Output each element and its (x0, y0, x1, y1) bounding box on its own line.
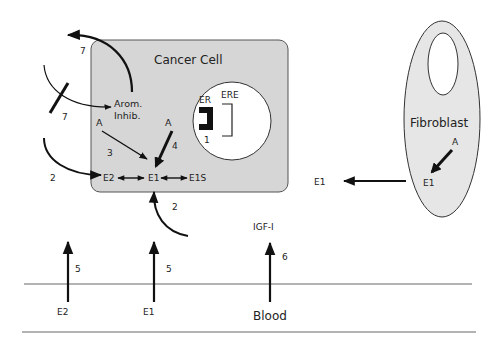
blood-label: Blood (253, 309, 287, 323)
nucleus: ER ERE 1 (193, 82, 271, 160)
e1-label: E1 (148, 173, 159, 183)
arom-inhib-label-1: Arom. (114, 98, 142, 109)
cancer-cell-title: Cancer Cell (154, 53, 223, 67)
arrow-step-2-bottom (154, 192, 188, 236)
step-2-left-label: 2 (50, 173, 56, 183)
androgen-left-label: A (96, 117, 103, 128)
e1s-label: E1S (189, 173, 206, 183)
estrogen-pathway-diagram: Cancer Cell ER ERE 1 Arom. Inhib. A A 3 … (0, 0, 499, 347)
blood-e2-label: E2 (57, 307, 68, 317)
fibroblast-e1-label: E1 (423, 178, 434, 188)
step-7-top-label: 7 (80, 46, 86, 56)
step-6-label: 6 (282, 252, 288, 262)
step-7-inhib-label: 7 (62, 112, 68, 122)
fibroblast: Fibroblast A E1 (404, 21, 480, 217)
cancer-cell: Cancer Cell ER ERE 1 Arom. Inhib. A A 3 … (91, 40, 288, 192)
step-3-label: 3 (107, 148, 113, 158)
step-5-left-label: 5 (75, 264, 81, 274)
free-e1-label: E1 (314, 177, 325, 187)
ere-label: ERE (221, 90, 239, 100)
step-4-label: 4 (172, 141, 178, 151)
step-2-bottom-label: 2 (172, 202, 178, 212)
arom-inhib-label-2: Inhib. (114, 110, 141, 121)
step-1-label: 1 (204, 135, 210, 145)
blood-e1-label: E1 (143, 307, 154, 317)
fibroblast-a-label: A (452, 137, 459, 147)
step-5-mid-label: 5 (166, 264, 172, 274)
igf-label: IGF-I (253, 222, 274, 232)
e2-label: E2 (103, 173, 114, 183)
androgen-right-label: A (165, 117, 172, 128)
er-label: ER (199, 95, 211, 105)
fibroblast-title: Fibroblast (410, 116, 469, 130)
